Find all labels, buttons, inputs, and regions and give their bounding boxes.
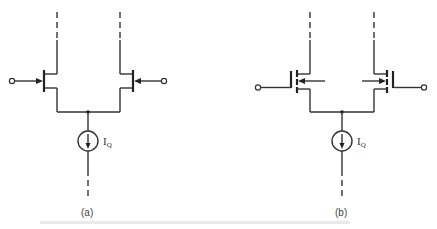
right-input-terminal: [421, 85, 426, 90]
panel-a-caption: (a): [81, 207, 93, 218]
panel-a-circuit: [9, 12, 166, 196]
panel-b-circuit: [255, 12, 426, 196]
left-input-terminal: [9, 78, 14, 83]
current-source-arrow-icon: [86, 143, 91, 149]
right-input-terminal: [161, 78, 166, 83]
right-gate-arrow-icon: [134, 78, 141, 84]
right-body-arrow-icon: [379, 78, 386, 84]
differential-pair-schematic: [0, 0, 437, 229]
left-input-terminal: [255, 85, 260, 90]
left-gate-arrow-icon: [36, 78, 43, 84]
panel-b-caption: (b): [335, 207, 347, 218]
faded-figure-caption: [40, 221, 350, 224]
panel-b-current-label: IQ: [357, 136, 366, 147]
current-source-arrow-icon: [340, 143, 345, 149]
current-subscript: Q: [107, 141, 112, 149]
left-body-arrow-icon: [298, 78, 305, 84]
current-subscript: Q: [361, 141, 366, 149]
panel-a-current-label: IQ: [103, 136, 112, 147]
